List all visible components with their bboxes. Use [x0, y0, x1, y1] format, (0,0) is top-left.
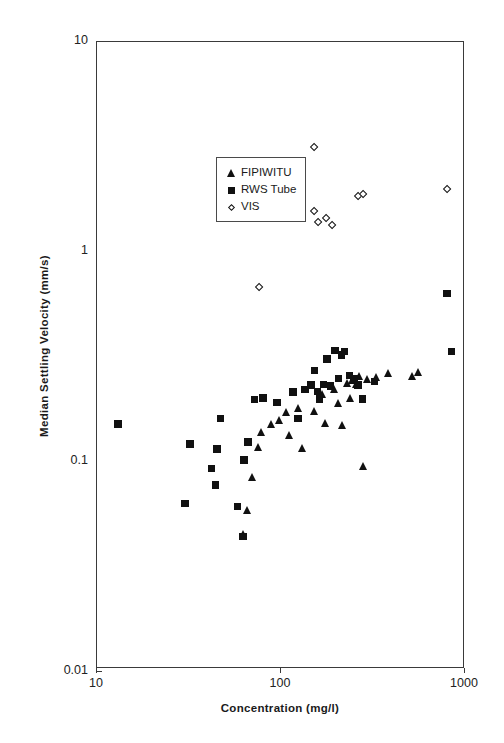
- data-point-rws-tube: [323, 355, 331, 363]
- x-tick-mark-10: [96, 668, 97, 673]
- data-point-rws-tube: [359, 395, 367, 403]
- y-tick-label-0.01: 0.01: [20, 663, 88, 677]
- data-point-fipiwitu: [282, 408, 290, 416]
- data-point-vis: [443, 185, 452, 194]
- data-point-rws-tube: [314, 388, 322, 396]
- y-tick-label-0.1: 0.1: [20, 453, 88, 467]
- data-point-fipiwitu: [257, 428, 265, 436]
- x-tick-label-10: 10: [56, 676, 136, 690]
- legend-label-rws-tube: RWS Tube: [241, 184, 296, 196]
- data-point-rws-tube: [212, 481, 220, 489]
- data-point-rws-tube: [335, 375, 343, 383]
- triangle-marker-icon: [225, 166, 238, 179]
- data-point-vis: [310, 142, 319, 151]
- data-point-vis: [310, 207, 319, 216]
- y-tick-label-1: 1: [20, 243, 88, 257]
- data-point-rws-tube: [443, 290, 451, 298]
- data-point-rws-tube: [327, 382, 335, 390]
- data-point-rws-tube: [217, 415, 225, 423]
- data-point-fipiwitu: [321, 419, 329, 427]
- data-point-rws-tube: [354, 381, 362, 389]
- data-point-rws-tube: [294, 415, 302, 423]
- chart-legend: FIPIWITU RWS Tube VIS: [216, 157, 306, 222]
- data-point-rws-tube: [251, 396, 259, 404]
- data-point-vis: [255, 282, 264, 291]
- data-point-fipiwitu: [359, 462, 367, 470]
- data-point-rws-tube: [448, 348, 456, 356]
- legend-label-vis: VIS: [241, 201, 260, 213]
- x-tick-mark-1000: [464, 668, 465, 673]
- data-point-rws-tube: [234, 503, 242, 511]
- data-point-fipiwitu: [275, 416, 283, 424]
- data-point-rws-tube: [208, 465, 216, 473]
- data-point-vis: [322, 214, 331, 223]
- x-axis-title: Concentration (mg/l): [96, 702, 464, 714]
- data-point-rws-tube: [289, 388, 297, 396]
- data-point-rws-tube: [244, 438, 252, 446]
- data-point-fipiwitu: [254, 443, 262, 451]
- data-point-rws-tube: [273, 399, 281, 407]
- data-point-fipiwitu: [243, 506, 251, 514]
- legend-item-vis: VIS: [225, 198, 298, 215]
- data-point-rws-tube: [259, 394, 267, 402]
- x-tick-label-1000: 1000: [424, 676, 504, 690]
- legend-label-fipiwitu: FIPIWITU: [241, 167, 291, 179]
- data-point-fipiwitu: [334, 399, 342, 407]
- data-point-rws-tube: [371, 378, 379, 386]
- data-point-rws-tube: [239, 533, 247, 541]
- y-axis-title: Median Settling Velocity (mm/s): [38, 216, 50, 476]
- data-point-fipiwitu: [414, 368, 422, 376]
- data-point-fipiwitu: [384, 369, 392, 377]
- data-point-fipiwitu: [248, 473, 256, 481]
- data-point-fipiwitu: [298, 444, 306, 452]
- data-point-rws-tube: [114, 420, 122, 428]
- data-point-fipiwitu: [267, 420, 275, 428]
- data-point-fipiwitu: [346, 394, 354, 402]
- data-point-rws-tube: [311, 367, 319, 375]
- data-point-fipiwitu: [285, 431, 293, 439]
- plot-area: FIPIWITU RWS Tube VIS: [96, 41, 464, 668]
- data-point-fipiwitu: [294, 404, 302, 412]
- data-point-rws-tube: [341, 348, 349, 356]
- x-tick-label-100: 100: [240, 676, 320, 690]
- data-point-fipiwitu: [338, 421, 346, 429]
- scatter-plot-figure: 10 1 0.1 0.01 10 100 1000 FIPIWITU RWS T…: [0, 0, 504, 743]
- data-point-rws-tube: [240, 456, 248, 464]
- data-point-rws-tube: [181, 500, 189, 508]
- legend-item-rws-tube: RWS Tube: [225, 181, 298, 198]
- y-tick-label-10: 10: [20, 33, 88, 47]
- data-point-rws-tube: [213, 445, 221, 453]
- data-point-rws-tube: [186, 440, 194, 448]
- data-point-rws-tube: [316, 395, 324, 403]
- data-point-vis: [328, 221, 337, 230]
- data-point-fipiwitu: [310, 407, 318, 415]
- square-marker-icon: [225, 183, 238, 196]
- diamond-marker-icon: [225, 200, 238, 213]
- x-tick-mark-100: [280, 668, 281, 673]
- legend-item-fipiwitu: FIPIWITU: [225, 164, 298, 181]
